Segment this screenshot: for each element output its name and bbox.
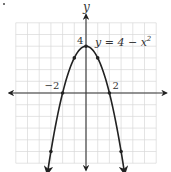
data-point	[108, 91, 112, 95]
y-axis-label: y	[82, 0, 90, 14]
data-point	[119, 150, 123, 154]
x-tick-label: 2	[112, 80, 118, 91]
data-point	[84, 44, 88, 48]
parabola-graph: y y = 4 − x2 −224	[0, 0, 171, 172]
axis-labels: y y = 4 − x2 −224	[45, 0, 152, 91]
data-point	[61, 91, 65, 95]
data-point	[96, 56, 100, 60]
stray-dot	[3, 3, 5, 5]
data-point	[49, 150, 53, 154]
x-tick-label: −2	[45, 80, 60, 91]
equation-label: y = 4 − x2	[94, 35, 152, 49]
data-point	[73, 56, 77, 60]
y-tick-label: 4	[77, 35, 83, 46]
